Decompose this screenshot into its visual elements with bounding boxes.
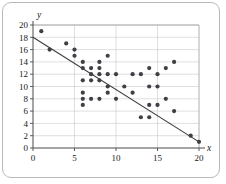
data-point: [139, 72, 143, 76]
data-point: [114, 97, 118, 101]
y-tick-label: 2: [24, 131, 29, 141]
data-point: [89, 66, 93, 70]
x-axis-tick-labels: 05101520: [31, 153, 204, 163]
data-point: [89, 78, 93, 82]
data-point: [81, 91, 85, 95]
y-tick-label: 0: [24, 143, 29, 153]
data-point: [72, 54, 76, 58]
data-point: [81, 97, 85, 101]
data-point: [147, 115, 151, 119]
data-point: [97, 66, 101, 70]
data-point: [81, 66, 85, 70]
data-point: [155, 103, 159, 107]
x-tick-label: 15: [153, 153, 163, 163]
data-point: [172, 109, 176, 113]
data-point: [155, 72, 159, 76]
data-point: [106, 84, 110, 88]
data-point: [39, 29, 43, 33]
scatter-plot-svg: 02468101214161820 05101520 yx: [0, 0, 226, 184]
y-tick-label: 20: [19, 20, 29, 30]
x-tick-label: 10: [112, 153, 122, 163]
data-point: [172, 60, 176, 64]
data-point: [139, 115, 143, 119]
data-point: [72, 48, 76, 52]
data-point: [164, 97, 168, 101]
data-point: [97, 78, 101, 82]
y-tick-label: 12: [19, 69, 28, 79]
x-tick-label: 5: [72, 153, 77, 163]
x-tick-label: 20: [195, 153, 205, 163]
data-point: [97, 97, 101, 101]
y-tick-label: 10: [19, 82, 29, 92]
data-point: [48, 48, 52, 52]
x-tick-label: 0: [31, 153, 36, 163]
y-tick-label: 4: [24, 119, 29, 129]
data-point: [131, 91, 135, 95]
data-point: [155, 84, 159, 88]
data-point: [106, 72, 110, 76]
data-point: [97, 72, 101, 76]
y-axis-tick-labels: 02468101214161820: [19, 20, 29, 153]
data-point: [147, 103, 151, 107]
y-tick-label: 18: [19, 33, 29, 43]
data-point: [106, 91, 110, 95]
x-axis-name: x: [206, 143, 212, 153]
data-point: [189, 134, 193, 138]
data-point: [89, 97, 93, 101]
y-tick-label: 8: [24, 94, 29, 104]
data-point: [147, 84, 151, 88]
data-point: [64, 41, 68, 45]
gridlines-group: [33, 25, 199, 148]
data-point: [89, 72, 93, 76]
data-point: [131, 72, 135, 76]
data-point: [122, 84, 126, 88]
data-point: [197, 140, 201, 144]
data-point: [147, 66, 151, 70]
y-tick-label: 6: [24, 106, 29, 116]
data-point: [106, 54, 110, 58]
data-point: [97, 60, 101, 64]
axis-name-labels: yx: [36, 10, 212, 153]
y-axis-name: y: [36, 10, 42, 20]
data-point: [81, 103, 85, 107]
scatter-chart: 02468101214161820 05101520 yx: [0, 0, 226, 184]
y-tick-label: 14: [19, 57, 29, 67]
data-point: [81, 78, 85, 82]
data-point: [164, 66, 168, 70]
data-point: [114, 72, 118, 76]
data-point: [81, 60, 85, 64]
y-tick-label: 16: [19, 45, 29, 55]
